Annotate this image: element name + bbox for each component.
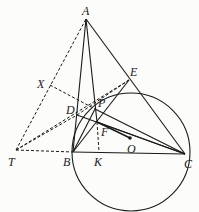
label-P: P <box>97 96 106 110</box>
segment-AF <box>86 19 97 122</box>
label-A: A <box>81 4 90 18</box>
segment-BE <box>73 80 129 152</box>
label-E: E <box>129 65 138 79</box>
center-point-O <box>128 136 132 140</box>
segment-PC <box>95 109 185 154</box>
segment-TB <box>16 150 73 152</box>
label-D: D <box>65 103 75 117</box>
label-O: O <box>127 142 136 156</box>
segment-FK <box>97 122 99 152</box>
label-K: K <box>93 155 103 169</box>
label-C: C <box>184 157 193 171</box>
geometry-figure: A E X D P F O T B K C <box>0 0 199 212</box>
label-X: X <box>36 77 45 91</box>
segment-FC <box>97 122 185 154</box>
label-T: T <box>8 155 16 169</box>
label-F: F <box>100 125 109 139</box>
diagram-canvas: A E X D P F O T B K C <box>0 0 199 212</box>
label-B: B <box>63 155 71 169</box>
